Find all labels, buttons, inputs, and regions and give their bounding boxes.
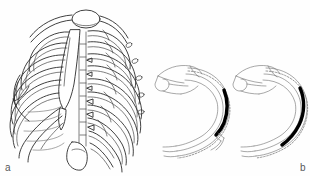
sternum-group bbox=[59, 30, 80, 130]
figure-root: a bbox=[0, 0, 310, 176]
manubrium-group bbox=[72, 10, 100, 28]
rib-outer-contour-left bbox=[178, 68, 229, 156]
vertebra-tick-group bbox=[80, 44, 86, 135]
panel-label-b: b bbox=[300, 163, 306, 173]
ribs-right-group bbox=[88, 30, 142, 172]
ribcage-illustration bbox=[0, 0, 152, 176]
thoracic-spine-group bbox=[79, 30, 86, 150]
rib-outer-contour-right bbox=[256, 68, 307, 156]
rib-section-left-group bbox=[155, 65, 230, 158]
panel-b-rib-sections: b bbox=[152, 0, 310, 176]
lumbar-body-group bbox=[67, 142, 88, 170]
rib-anterior-tip-right bbox=[241, 146, 256, 157]
panel-label-a: a bbox=[5, 163, 11, 173]
rib-inner-contour-left bbox=[177, 74, 223, 151]
rib-inner-contour2-left bbox=[176, 80, 218, 146]
rib-anterior-tip-left bbox=[163, 146, 178, 157]
vertebra-right bbox=[233, 65, 280, 94]
rib-head-markers bbox=[125, 42, 144, 115]
vertebra-left bbox=[155, 65, 202, 94]
rib-section-right-group bbox=[233, 65, 308, 158]
rib-section-illustration bbox=[152, 0, 310, 176]
rib-inner-contour-right bbox=[255, 74, 301, 151]
panel-a-ribcage: a bbox=[0, 0, 152, 176]
